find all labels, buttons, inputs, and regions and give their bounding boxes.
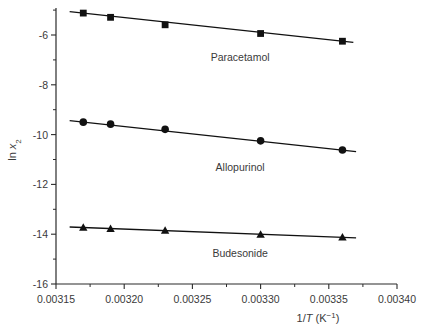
y-tick-label: -6 <box>39 29 48 41</box>
x-tick-label: 0.00330 <box>242 293 280 305</box>
x-axis-title: 1/T (K−1) <box>297 311 340 325</box>
x-tick-label: 0.00335 <box>310 293 348 305</box>
y-tick-label: -12 <box>33 178 48 190</box>
y-axis-title: ln x2 <box>6 139 23 161</box>
chart-figure: -6-8-10-12-14-160.003150.003200.003250.0… <box>0 0 424 332</box>
x-tick-label: 0.00320 <box>105 293 143 305</box>
data-point <box>107 120 115 128</box>
series-allopurinol: Allopurinol <box>70 118 356 172</box>
series-label: Paracetamol <box>211 51 270 63</box>
y-tick-label: -14 <box>33 228 48 240</box>
series-budesonide: Budesonide <box>70 223 356 259</box>
series-label: Budesonide <box>212 247 268 259</box>
series-label: Allopurinol <box>216 161 265 173</box>
data-point <box>80 10 87 17</box>
data-point <box>339 38 346 45</box>
x-tick-label: 0.00315 <box>37 293 75 305</box>
x-tick-label: 0.00325 <box>173 293 211 305</box>
data-point <box>162 21 169 28</box>
series-paracetamol: Paracetamol <box>70 10 354 63</box>
vant-hoff-plot-svg: -6-8-10-12-14-160.003150.003200.003250.0… <box>0 0 424 332</box>
y-tick-label: -8 <box>39 79 48 91</box>
y-tick-label: -16 <box>33 278 48 290</box>
data-point <box>107 14 114 21</box>
data-point <box>161 126 169 134</box>
data-point <box>257 137 265 145</box>
y-tick-label: -10 <box>33 129 48 141</box>
data-point <box>339 146 347 154</box>
data-point <box>79 118 87 126</box>
x-tick-label: 0.00340 <box>378 293 416 305</box>
data-point <box>257 30 264 37</box>
